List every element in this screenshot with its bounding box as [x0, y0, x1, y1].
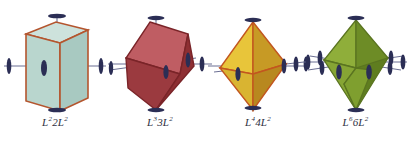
figure-item-tetragonal-bipyramid: L44L2 — [208, 0, 308, 145]
axis-marker-interior-right — [366, 65, 372, 80]
axis-marker-right-inner — [282, 59, 287, 74]
axis-marker-right-outer — [401, 55, 406, 70]
axis-marker-right-inner — [186, 53, 191, 68]
prism-drawing — [0, 0, 110, 120]
figure-item-hexagonal-bipyramid: L66L2 — [304, 0, 407, 145]
figure-item-rhombohedron: L33L2 — [108, 0, 212, 145]
figure-label-rhombohedron: L33L2 — [108, 116, 212, 128]
label-sup2: 2 — [64, 115, 68, 123]
axis-marker-bottom — [48, 108, 66, 113]
axis-marker-right-outer — [200, 57, 205, 72]
axis-marker-bottom — [148, 108, 165, 112]
axis-marker-top — [348, 16, 365, 20]
figure-label-hexagonal-bipyramid: L66L2 — [304, 116, 407, 128]
prism-side-face — [60, 30, 88, 111]
label-sup2: 2 — [169, 115, 173, 123]
crystal-symmetry-figure: L22L2 — [0, 0, 407, 145]
rhombohedron-drawing — [108, 0, 212, 120]
axis-marker-bottom — [245, 106, 262, 110]
bipyramid-upper-left-face — [220, 22, 253, 74]
axis-marker-interior-left — [235, 67, 240, 81]
label-sup2: 2 — [365, 115, 369, 123]
axis-marker-interior — [163, 65, 168, 79]
label-sup2: 2 — [267, 115, 271, 123]
axis-marker-interior — [41, 60, 47, 76]
axis-marker-interior-left — [336, 65, 342, 80]
hexagonal-bipyramid-drawing — [304, 0, 407, 120]
axis-marker-right — [99, 58, 104, 74]
axis-marker-left-inner — [320, 61, 325, 75]
axis-marker-left-outer — [306, 55, 311, 70]
axis-marker-right-mid — [294, 57, 299, 72]
axis-marker-left — [109, 61, 113, 75]
figure-item-prism: L22L2 — [0, 0, 110, 145]
tetragonal-bipyramid-drawing — [208, 0, 308, 120]
axis-marker-top — [148, 16, 165, 20]
figure-label-prism: L22L2 — [0, 116, 110, 128]
axis-marker-top — [245, 18, 262, 22]
axis-marker-bottom — [348, 108, 365, 112]
figure-label-tetragonal-bipyramid: L44L2 — [208, 116, 308, 128]
axis-marker-right-inner — [388, 61, 393, 75]
axis-marker-top — [48, 14, 66, 19]
axis-marker-left — [7, 58, 12, 74]
